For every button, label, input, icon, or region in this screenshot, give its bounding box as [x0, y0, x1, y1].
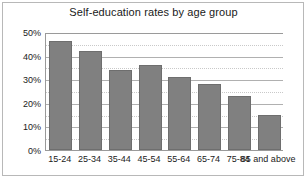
x-axis-tick-label: 65-74	[197, 154, 220, 164]
bar-series	[46, 33, 283, 150]
bar	[109, 70, 132, 150]
x-axis-tick-label: 55-64	[167, 154, 190, 164]
x-axis: 15-2425-3435-4445-5455-6465-7475-8485 an…	[45, 154, 283, 170]
y-axis-tick-label: 30%	[5, 75, 41, 85]
chart-container: Self-education rates by age group 0%10%2…	[0, 0, 307, 179]
y-axis: 0%10%20%30%40%50%	[1, 33, 41, 151]
chart-title: Self-education rates by age group	[0, 6, 307, 18]
bar	[228, 96, 251, 150]
bar	[198, 84, 221, 150]
bar	[168, 77, 191, 150]
x-axis-tick-label: 45-54	[138, 154, 161, 164]
bar	[49, 41, 72, 150]
bar	[79, 51, 102, 150]
y-axis-tick-label: 20%	[5, 99, 41, 109]
y-axis-tick-label: 0%	[5, 146, 41, 156]
y-axis-tick-label: 10%	[5, 122, 41, 132]
y-axis-tick-label: 40%	[5, 52, 41, 62]
x-axis-tick-label: 35-44	[108, 154, 131, 164]
x-axis-tick-label: 85 and above	[241, 154, 296, 164]
x-axis-tick-label: 15-24	[48, 154, 71, 164]
bar	[258, 115, 281, 150]
y-axis-tick-label: 50%	[5, 28, 41, 38]
plot-area	[45, 33, 283, 151]
bar	[139, 65, 162, 150]
x-axis-tick-label: 25-34	[78, 154, 101, 164]
